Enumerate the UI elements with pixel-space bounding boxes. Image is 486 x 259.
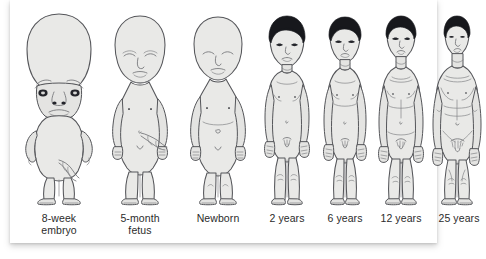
stage-label-fetus-5-month: 5-month fetus — [100, 212, 180, 237]
stage-age-25-years: 25 years — [428, 0, 486, 243]
growth-stage-strip: 8-week embryo — [10, 0, 437, 243]
stage-label-age-12-years: 12 years — [372, 212, 430, 224]
stage-age-6-years: 6 years — [316, 0, 374, 243]
figure-embryo-8-week — [16, 0, 102, 208]
stage-label-embryo-8-week: 8-week embryo — [16, 212, 102, 237]
figure-age-12-years — [372, 0, 430, 208]
stage-label-age-25-years: 25 years — [428, 212, 486, 224]
stage-label-age-2-years: 2 years — [256, 212, 318, 224]
illustration-card: 8-week embryo — [10, 0, 437, 243]
figure-fetus-5-month — [100, 0, 180, 208]
stage-embryo-8-week: 8-week embryo — [16, 0, 102, 243]
stage-label-age-6-years: 6 years — [316, 212, 374, 224]
figure-age-6-years — [316, 0, 374, 208]
stage-fetus-5-month: 5-month fetus — [100, 0, 180, 243]
figure-newborn — [178, 0, 258, 208]
stage-age-12-years: 12 years — [372, 0, 430, 243]
stage-age-2-years: 2 years — [256, 0, 318, 243]
figure-age-2-years — [256, 0, 318, 208]
figure-age-25-years — [428, 0, 486, 208]
stage-newborn: Newborn — [178, 0, 258, 243]
stage-label-newborn: Newborn — [178, 212, 258, 224]
